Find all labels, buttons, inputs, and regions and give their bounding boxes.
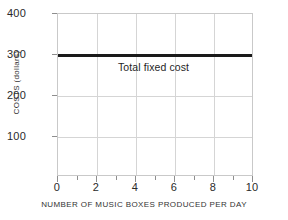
x-tick-mark-5 (155, 176, 156, 180)
x-tick-mark-3 (116, 176, 117, 180)
plot-area: Total fixed cost (57, 13, 253, 176)
series-annotation-total-fixed-cost: Total fixed cost (118, 61, 189, 73)
gridline-horizontal-200 (58, 96, 252, 97)
y-tick-mark-200 (52, 95, 57, 96)
gridline-vertical-4 (136, 14, 137, 175)
y-tick-mark-100 (52, 136, 57, 137)
y-axis-title: COSTS (dollars) (12, 23, 21, 143)
y-tick-mark-400 (52, 13, 57, 14)
x-tick-label-6: 6 (171, 181, 177, 193)
gridline-vertical-2 (97, 14, 98, 175)
gridline-vertical-6 (175, 14, 176, 175)
x-tick-label-10: 10 (246, 181, 259, 193)
x-tick-label-2: 2 (93, 181, 99, 193)
x-tick-mark-1 (77, 176, 78, 180)
gridline-horizontal-100 (58, 137, 252, 138)
gridline-vertical-8 (214, 14, 215, 175)
y-tick-mark-300 (52, 54, 57, 55)
x-tick-label-8: 8 (210, 181, 216, 193)
fixed-cost-chart: Total fixed cost 400 300 200 100 COSTS (… (0, 0, 288, 220)
series-line-total-fixed-cost (58, 54, 252, 57)
x-tick-label-4: 4 (132, 181, 138, 193)
y-tick-label-400: 400 (7, 7, 26, 19)
x-tick-mark-7 (194, 176, 195, 180)
x-axis-title: NUMBER OF MUSIC BOXES PRODUCED PER DAY (0, 200, 288, 209)
x-tick-mark-9 (233, 176, 234, 180)
x-tick-label-0: 0 (54, 181, 60, 193)
